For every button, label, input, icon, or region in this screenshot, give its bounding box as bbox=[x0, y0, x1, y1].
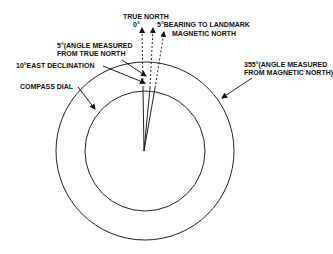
bearing-label: 5°BEARING TO LANDMARK bbox=[157, 21, 250, 29]
angle-mag-label-1: 355°(ANGLE MEASURED bbox=[244, 61, 327, 69]
inner-circle bbox=[85, 91, 205, 211]
compass-dial-label: COMPASS DIAL bbox=[20, 83, 73, 91]
declination-label: 10°EAST DECLINATION bbox=[16, 62, 95, 70]
true-north-label: TRUE NORTH bbox=[123, 13, 169, 21]
angle-mag-label-2: FROM MAGNETIC NORTH) bbox=[244, 69, 333, 77]
outer-circle bbox=[56, 62, 234, 240]
true-north-degree: 0° bbox=[133, 21, 140, 29]
angle-true-label-1: 5°(ANGLE MEASURED bbox=[57, 42, 133, 50]
angle-true-label-2: FROM TRUE NORTH bbox=[57, 50, 125, 58]
magnetic-north-label: MAGNETIC NORTH bbox=[172, 30, 236, 38]
